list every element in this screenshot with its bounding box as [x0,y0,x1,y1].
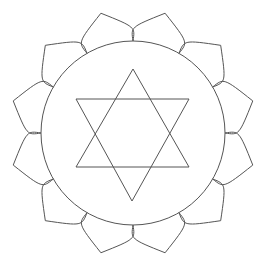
lotus-petal [42,42,87,87]
yantra-diagram [0,0,266,268]
lotus-petal [179,179,224,224]
upward-triangle [76,69,189,167]
lotus-petal [13,132,53,184]
lotus-petal [179,42,224,87]
lotus-petal [81,213,133,253]
lotus-petal [42,179,87,224]
lotus-petal [132,213,184,253]
yantra-svg [0,0,266,268]
lotus-petal [81,13,133,53]
lotus-petal [213,132,253,184]
lotus-petals [13,13,253,253]
lotus-petal [213,81,253,133]
lotus-petal [132,13,184,53]
downward-triangle [76,99,189,201]
lotus-petal [13,81,53,133]
